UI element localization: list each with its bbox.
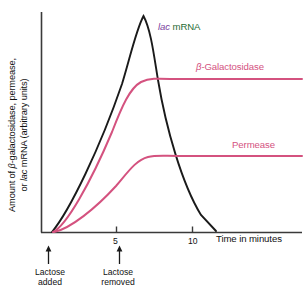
lactose-added-arrow-icon	[46, 246, 52, 265]
lactose-removed-arrow-icon	[117, 246, 123, 265]
series-label-lac-mrna-italic: lac	[158, 21, 170, 32]
annotation-lactose-added: Lactose added	[22, 267, 78, 288]
x-axis-label: Time in minutes	[216, 233, 282, 244]
annotation-lactose-removed: Lactose removed	[86, 267, 150, 288]
curve-lac-mrna	[52, 16, 216, 232]
curve-permease	[54, 156, 302, 232]
annotation-lactose-removed-line2: removed	[101, 277, 134, 287]
annotation-lactose-added-line2: added	[38, 277, 62, 287]
series-label-beta-galactosidase: β-Galactosidase	[196, 61, 264, 72]
series-label-lac-mrna: lac mRNA	[158, 21, 200, 32]
series-label-lac-mrna-rest: mRNA	[170, 21, 200, 32]
annotation-lactose-removed-line1: Lactose	[103, 267, 133, 277]
series-label-permease: Permease	[232, 139, 275, 150]
series-label-beta-rest: -Galactosidase	[201, 61, 264, 72]
lac-operon-induction-figure: Amount of β-galactosidase, permease, or …	[0, 0, 307, 297]
x-tick-label-10: 10	[188, 236, 198, 246]
x-tick-label-5: 5	[113, 236, 118, 246]
annotation-lactose-added-line1: Lactose	[35, 267, 65, 277]
